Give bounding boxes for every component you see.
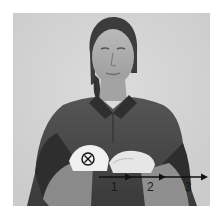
neck bbox=[99, 79, 127, 101]
step-label-1: 1 bbox=[111, 181, 118, 193]
sign-photo: 1 2 3 bbox=[13, 13, 210, 206]
step-label-2: 2 bbox=[147, 181, 154, 193]
step-label-3: 3 bbox=[185, 181, 192, 193]
photo-illustration bbox=[13, 13, 210, 206]
face bbox=[92, 29, 134, 85]
